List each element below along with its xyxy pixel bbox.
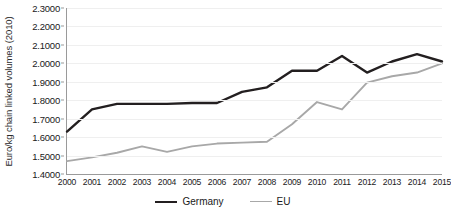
gridline [67,156,442,157]
legend-item-eu[interactable]: EU [250,196,291,207]
y-axis-title: Euro/kg chain linked volumes (2010) [0,0,16,182]
y-axis-tick-label: 2.0000 [32,58,60,69]
legend-label: EU [277,196,291,207]
chart-legend: GermanyEU [0,196,446,207]
legend-swatch-icon [250,201,272,202]
gridline [67,82,442,83]
y-axis-tick-mark [61,26,64,27]
y-axis-tick-mark [61,100,64,101]
y-axis-tick-label: 1.4000 [32,169,60,180]
x-axis-tick-label: 2011 [333,177,351,187]
x-axis-tick-label: 2007 [233,177,251,187]
y-axis-tick-mark [61,118,64,119]
x-axis-tick-label: 2004 [158,177,176,187]
y-axis-tick-label: 2.3000 [32,3,60,14]
x-axis-tick-label: 2005 [183,177,201,187]
y-axis-tick-mark [61,174,64,175]
series-line-eu [67,63,442,161]
x-axis-tick-label: 2015 [433,177,451,187]
y-axis-tick-label: 2.2000 [32,21,60,32]
y-axis-tick-label: 1.6000 [32,132,60,143]
x-axis-tick-label: 2014 [408,177,426,187]
gridline [67,26,442,27]
y-axis-tick-mark [61,155,64,156]
x-axis-tick-label: 2008 [258,177,276,187]
x-axis-line [66,174,442,175]
x-axis-tick-label: 2002 [108,177,126,187]
y-axis-tick-labels: 1.40001.50001.60001.70001.80001.90002.00… [16,0,64,182]
y-axis-tick-label: 1.7000 [32,113,60,124]
gridline [67,100,442,101]
legend-label: Germany [182,196,223,207]
y-axis-tick-mark [61,8,64,9]
y-axis-tick-label: 1.9000 [32,76,60,87]
x-axis-tick-label: 2009 [283,177,301,187]
y-axis-title-text: Euro/kg chain linked volumes (2010) [3,16,14,166]
gridline [67,8,442,9]
y-axis-tick-mark [61,44,64,45]
y-axis-tick-label: 1.8000 [32,95,60,106]
x-axis-tick-label: 2006 [208,177,226,187]
plot-area [67,8,442,174]
y-axis-tick-label: 1.5000 [32,150,60,161]
x-axis-tick-label: 2010 [308,177,326,187]
gridline [67,119,442,120]
y-axis-tick-mark [61,63,64,64]
y-axis-tick-label: 2.1000 [32,39,60,50]
y-axis-tick-mark [61,137,64,138]
legend-item-germany[interactable]: Germany [155,196,223,207]
x-axis-tick-label: 2000 [58,177,76,187]
x-axis-tick-label: 2013 [383,177,401,187]
series-line-germany [67,54,442,131]
gridline [67,137,442,138]
legend-swatch-icon [155,201,177,203]
x-axis-tick-label: 2003 [133,177,151,187]
gridline [67,45,442,46]
x-axis-tick-label: 2012 [358,177,376,187]
series-container [67,8,442,174]
gridline [67,63,442,64]
x-axis-tick-labels: 2000200120022003200420052006200720082009… [67,177,442,191]
x-axis-tick-label: 2001 [83,177,101,187]
y-axis-tick-mark [61,81,64,82]
